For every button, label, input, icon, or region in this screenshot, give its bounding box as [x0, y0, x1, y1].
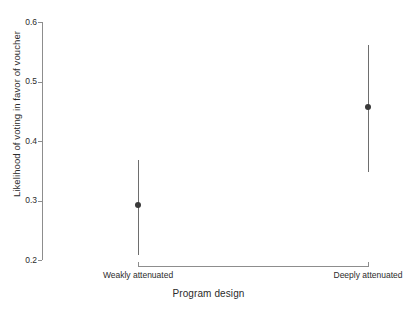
y-tick-label-3: 0.3 [0, 196, 37, 205]
y-tick-mark-3 [38, 201, 42, 202]
x-tick-mark-1 [368, 262, 369, 267]
data-point-deeply-attenuated [365, 104, 371, 110]
x-axis-line [138, 266, 369, 267]
data-point-weakly-attenuated [135, 202, 141, 208]
y-tick-mark-2 [38, 141, 42, 142]
x-axis-title: Program design [0, 288, 417, 299]
y-tick-label-1: 0.5 [0, 77, 37, 86]
x-tick-label-deeply-attenuated: Deeply attenuated [298, 270, 417, 280]
y-tick-mark-1 [38, 82, 42, 83]
y-tick-mark-4 [38, 260, 42, 261]
y-tick-label-0: 0.6 [0, 18, 37, 27]
y-tick-label-2: 0.4 [0, 137, 37, 146]
y-axis-title: Likelihood of voting in favor of voucher [8, 0, 26, 270]
x-tick-mark-0 [138, 262, 139, 267]
y-tick-mark-0 [38, 22, 42, 23]
y-tick-label-4: 0.2 [0, 256, 37, 265]
y-axis-line [42, 22, 43, 260]
chart-container: Likelihood of voting in favor of voucher… [0, 0, 417, 312]
x-tick-label-weakly-attenuated: Weakly attenuated [68, 270, 208, 280]
